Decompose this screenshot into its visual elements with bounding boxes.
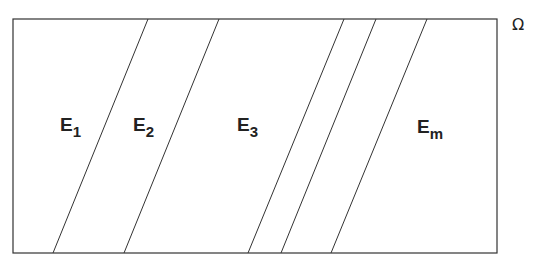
domain-omega-label: Ω: [512, 15, 524, 34]
region-label-e2: E2: [133, 114, 154, 140]
region-label-e1: E1: [60, 114, 81, 140]
divider-line-3: [248, 19, 344, 253]
divider-line-4: [281, 19, 376, 253]
region-label-e3: E3: [237, 114, 258, 140]
divider-line-5: [331, 19, 427, 253]
region-label-em: Em: [417, 116, 443, 142]
